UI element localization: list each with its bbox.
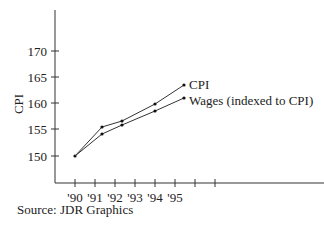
y-tick-155: 155 xyxy=(28,122,48,137)
y-tick-160: 160 xyxy=(28,96,48,111)
series-cpi-line xyxy=(75,85,184,156)
source-caption: Source: JDR Graphics xyxy=(17,202,133,218)
x-tick-95: '95 xyxy=(167,190,182,205)
y-tick-170: 170 xyxy=(28,44,48,59)
y-tick-labels: 170 165 160 155 150 xyxy=(28,44,48,164)
x-tick-94: '94 xyxy=(147,190,163,205)
y-tick-165: 165 xyxy=(28,70,48,85)
series-wages-line xyxy=(75,98,184,156)
annotation-wages: Wages (indexed to CPI) xyxy=(189,93,313,108)
annotation-cpi: CPI xyxy=(189,77,209,92)
y-tick-150: 150 xyxy=(28,149,48,164)
y-axis-label: CPI xyxy=(11,94,26,114)
line-chart: 170 165 160 155 150 CPI '90 '91 '92 '93 … xyxy=(0,0,324,228)
